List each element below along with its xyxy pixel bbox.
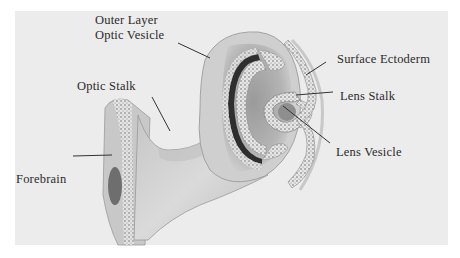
label-surface-ectoderm: Surface Ectoderm: [337, 52, 430, 67]
label-lens-vesicle: Lens Vesicle: [336, 145, 402, 160]
label-outer-layer-line2: Optic Vesicle: [95, 28, 164, 43]
label-outer-layer-line1: Outer Layer: [95, 13, 164, 28]
label-lens-stalk: Lens Stalk: [340, 89, 395, 104]
label-forebrain: Forebrain: [16, 172, 66, 187]
leader-optic-stalk: [152, 97, 170, 131]
forebrain-cavity: [108, 167, 122, 205]
label-optic-stalk: Optic Stalk: [77, 79, 136, 94]
leader-outer-layer: [178, 43, 210, 58]
optic-cup-illustration: [0, 0, 460, 258]
label-outer-layer: Outer Layer Optic Vesicle: [95, 13, 164, 43]
